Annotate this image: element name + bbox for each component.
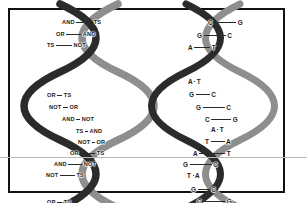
base-pair-right-label: T xyxy=(197,78,201,85)
base-pair-row: ANDNOT xyxy=(62,116,94,122)
base-pair-bond xyxy=(68,164,82,165)
base-pair-right-label: TS xyxy=(94,19,102,25)
base-pair-left-label: G xyxy=(196,104,201,111)
base-pair-right-label: NOT xyxy=(82,116,94,122)
base-pair-bond xyxy=(194,47,210,48)
base-pair-row: ORTS xyxy=(47,92,71,98)
base-pair-bond xyxy=(193,175,194,176)
base-pair-right-label: OR xyxy=(96,139,105,145)
base-pair-bond xyxy=(217,129,218,130)
base-pair-bond xyxy=(92,142,95,143)
logic-helix-rungs: ANDTSORANDTSNOTORTSNOTORANDNOTTSANDNOTOR… xyxy=(40,10,150,192)
figure-root: ANDTSORANDTSNOTORTSNOTORANDNOTTSANDNOTOR… xyxy=(0,0,307,203)
base-pair-right-label: TS xyxy=(76,172,84,178)
base-pair-left-label: A xyxy=(188,78,193,85)
base-pair-bond xyxy=(57,202,62,203)
base-pair-right-label: TS xyxy=(64,92,72,98)
base-pair-left-label: NOT xyxy=(46,172,58,178)
base-pair-bond xyxy=(63,107,68,108)
base-pair-bond xyxy=(211,119,231,120)
base-pair-row: TSAND xyxy=(76,128,102,134)
base-pair-left-label: G xyxy=(189,91,194,98)
base-pair-right-label: A xyxy=(226,138,231,145)
base-pair-row: GC xyxy=(196,104,231,111)
base-pair-left-label: OR xyxy=(70,150,79,156)
base-pair-right-label: G xyxy=(238,19,243,26)
base-pair-row: TA xyxy=(187,172,200,179)
base-pair-left-label: AND xyxy=(54,161,67,167)
base-pair-right-label: T xyxy=(212,44,216,51)
base-pair-right-label: TS xyxy=(64,199,72,203)
base-pair-row: ORTS xyxy=(70,150,104,156)
base-pair-left-label: TS xyxy=(76,128,84,134)
base-pair-right-label: T xyxy=(227,150,231,157)
base-pair-row: ORTS xyxy=(47,199,71,203)
dna-helix-rungs: CGGCATATGCGCCGATTAATGCTAGCCGAT xyxy=(168,10,278,192)
base-pair-left-label: NOT xyxy=(49,104,61,110)
base-pair-bond xyxy=(80,153,95,154)
base-pair-right-label: C xyxy=(211,186,216,193)
base-pair-row: CG xyxy=(205,116,238,123)
base-pair-left-label: A xyxy=(188,44,193,51)
logic-operator-helix: ANDTSORANDTSNOTORTSNOTORANDNOTTSANDNOTOR… xyxy=(40,10,150,192)
base-pair-row: TA xyxy=(205,138,231,145)
base-pair-right-label: TS xyxy=(97,150,105,156)
base-pair-left-label: OR xyxy=(47,92,56,98)
base-pair-right-label: OR xyxy=(69,104,78,110)
base-pair-right-label: C xyxy=(213,161,218,168)
base-pair-left-label: OR xyxy=(56,31,65,37)
base-pair-row: NOTOR xyxy=(78,139,105,145)
base-pair-left-label: TS xyxy=(47,42,55,48)
base-pair-row: GC xyxy=(189,91,216,98)
base-pair-right-label: C xyxy=(227,32,232,39)
base-pair-left-label: OR xyxy=(47,199,56,203)
base-pair-left-label: G xyxy=(183,161,188,168)
base-pair-bond xyxy=(203,107,225,108)
base-pair-left-label: G xyxy=(197,32,202,39)
base-pair-bond xyxy=(199,153,225,154)
base-pair-bond xyxy=(60,175,75,176)
base-pair-row: NOTTS xyxy=(46,172,84,178)
base-pair-left-label: C xyxy=(208,19,213,26)
base-pair-row: CG xyxy=(208,19,243,26)
base-pair-bond xyxy=(198,189,210,190)
base-pair-bond xyxy=(57,95,62,96)
base-pair-bond xyxy=(76,22,92,23)
base-pair-left-label: T xyxy=(187,172,191,179)
base-pair-bond xyxy=(56,45,72,46)
base-pair-left-label: NOT xyxy=(78,139,90,145)
base-pair-right-label: AND xyxy=(90,128,103,134)
base-pair-left-label: G xyxy=(191,186,196,193)
base-pair-right-label: C xyxy=(211,91,216,98)
base-pair-row: AT xyxy=(188,44,216,51)
base-pair-row: GC xyxy=(191,186,216,193)
base-pair-row: GC xyxy=(183,161,218,168)
base-pair-right-label: C xyxy=(226,104,231,111)
base-pair-right-label: A xyxy=(195,172,200,179)
base-pair-bond xyxy=(190,164,212,165)
base-pair-bond xyxy=(194,81,195,82)
base-pair-bond xyxy=(204,35,226,36)
base-pair-row: ANDNOT xyxy=(54,161,96,167)
base-pair-left-label: AND xyxy=(62,116,75,122)
base-pair-right-label: G xyxy=(227,198,232,203)
base-pair-bond xyxy=(76,119,80,120)
base-pair-right-label: G xyxy=(233,116,238,123)
base-pair-right-label: NOT xyxy=(74,42,86,48)
base-pair-left-label: A xyxy=(211,126,216,133)
base-pair-bond xyxy=(85,131,88,132)
base-pair-left-label: T xyxy=(205,138,209,145)
base-pair-row: TSNOT xyxy=(47,42,86,48)
base-pair-bond xyxy=(211,141,225,142)
horizontal-scan-line xyxy=(0,157,307,158)
dna-base-pair-helix: CGGCATATGCGCCGATTAATGCTAGCCGAT xyxy=(168,10,278,192)
base-pair-left-label: C xyxy=(197,198,202,203)
base-pair-row: GC xyxy=(197,32,232,39)
base-pair-row: ORAND xyxy=(56,31,96,37)
base-pair-bond xyxy=(203,201,225,202)
base-pair-row: CG xyxy=(197,198,232,203)
base-pair-row: AT xyxy=(188,78,201,85)
base-pair-left-label: AND xyxy=(62,19,75,25)
base-pair-right-label: NOT xyxy=(84,161,96,167)
base-pair-bond xyxy=(214,22,236,23)
